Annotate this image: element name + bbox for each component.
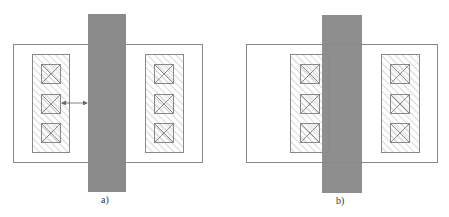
panel-a	[14, 14, 203, 192]
panel-b	[247, 15, 438, 193]
gate-poly	[88, 14, 126, 192]
gate-poly	[322, 15, 362, 193]
caption-b: b)	[336, 195, 344, 206]
left-diffusion-contacts	[33, 55, 70, 153]
caption-a: a)	[101, 194, 109, 205]
right-diffusion-contacts	[146, 55, 184, 153]
right-diffusion-contacts	[382, 55, 420, 153]
figure-canvas	[0, 0, 449, 217]
